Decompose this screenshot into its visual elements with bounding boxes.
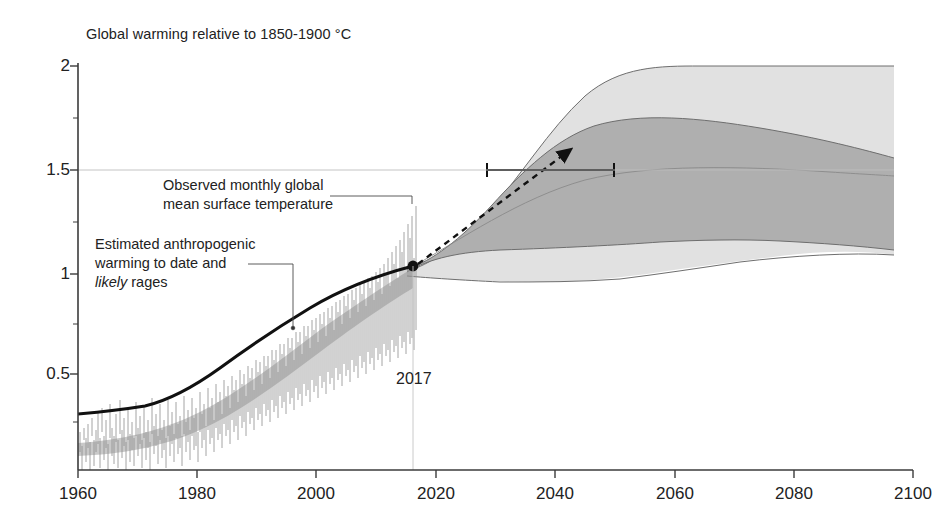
annotation-leaders bbox=[248, 196, 412, 330]
x-tick-label-2080: 2080 bbox=[759, 484, 829, 504]
x-tick-label-1980: 1980 bbox=[162, 484, 232, 504]
estimated-leader-dot bbox=[291, 326, 295, 330]
annotation-estimated: Estimated anthropogenic warming to date … bbox=[95, 235, 255, 292]
y-tick-label-2.0: 2 bbox=[26, 56, 70, 76]
annotation-observed: Observed monthly global mean surface tem… bbox=[163, 176, 333, 214]
x-tick-label-2100: 2100 bbox=[878, 484, 943, 504]
annotation-estimated-line3: likely rages bbox=[95, 273, 255, 292]
observed-leader-line bbox=[330, 196, 412, 204]
annotation-observed-line1: Observed monthly global bbox=[163, 176, 333, 195]
year-marker-label-2017: 2017 bbox=[396, 370, 432, 388]
x-tick-label-2060: 2060 bbox=[640, 484, 710, 504]
chart-root: Global warming relative to 1850-1900 °C … bbox=[0, 0, 943, 528]
x-tick-label-1960: 1960 bbox=[43, 484, 113, 504]
annotation-estimated-line2: warming to date and bbox=[95, 254, 255, 273]
y-axis-ticks bbox=[70, 66, 78, 422]
annotation-estimated-likely: likely bbox=[95, 274, 127, 290]
y-tick-label-1.0: 1 bbox=[26, 264, 70, 284]
x-tick-label-2000: 2000 bbox=[281, 484, 351, 504]
chart-title: Global warming relative to 1850-1900 °C bbox=[86, 26, 351, 42]
annotation-estimated-rages: rages bbox=[127, 274, 167, 290]
x-axis-ticks bbox=[78, 470, 913, 478]
x-tick-label-2020: 2020 bbox=[401, 484, 471, 504]
annotation-estimated-line1: Estimated anthropogenic bbox=[95, 235, 255, 254]
projection-bands bbox=[407, 66, 894, 282]
x-tick-label-2040: 2040 bbox=[520, 484, 590, 504]
y-tick-label-1.5: 1.5 bbox=[26, 160, 70, 180]
annotation-observed-line2: mean surface temperature bbox=[163, 195, 333, 214]
y-tick-label-0.5: 0.5 bbox=[26, 364, 70, 384]
